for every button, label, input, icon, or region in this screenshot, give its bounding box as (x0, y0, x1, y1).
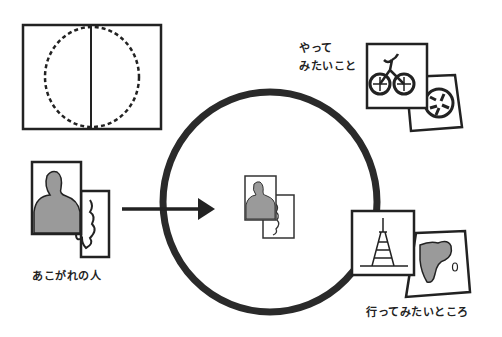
arrow-icon (122, 198, 215, 220)
want-to-go-label: 行ってみたいところ (366, 303, 469, 319)
want-to-do-label-line2: みたいこと (299, 58, 357, 76)
want-to-do-label-line1: やって (299, 40, 357, 58)
admired-person-label: あこがれの人 (32, 267, 101, 283)
book-dashed-circle-illustration (23, 25, 161, 129)
center-cards (245, 176, 294, 238)
want-to-go-cards (352, 211, 470, 297)
diagram-canvas (0, 0, 502, 337)
want-to-do-cards (367, 44, 462, 131)
admired-person-cards (32, 162, 109, 257)
want-to-do-label: やって みたいこと (299, 40, 357, 76)
